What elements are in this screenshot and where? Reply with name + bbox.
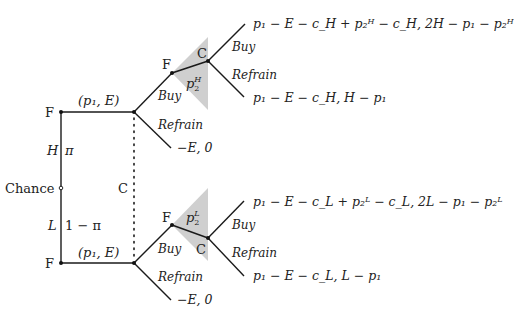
payoff-top-refrain: p₁ − E − c_H, H − p₁: [253, 92, 386, 105]
node-consumer2-bottom: [206, 236, 210, 240]
label-bottom-c-refrain: Refrain: [232, 247, 277, 259]
label-bottom-refrain: Refrain: [158, 271, 203, 283]
label-type-low: L: [48, 219, 57, 232]
label-type-high: H: [47, 144, 58, 157]
label-firm2-top: F: [162, 58, 171, 71]
label-bottom-c-buy: Buy: [232, 219, 255, 231]
node-consumer-bottom: [132, 261, 136, 265]
label-consumer2-bottom: C: [196, 243, 206, 256]
label-prob-low: 1 − π: [65, 219, 101, 232]
node-consumer-top: [132, 110, 136, 114]
label-offer-bottom: (p₁, E): [78, 246, 119, 259]
label-chance: Chance: [5, 182, 54, 195]
label-bottom-buy: Buy: [158, 243, 181, 255]
node-chance: [59, 186, 63, 190]
label-top-c-buy: Buy: [232, 41, 255, 53]
payoff-bottom-refrain-first: −E, 0: [177, 294, 213, 307]
label-firm-bottom: F: [45, 257, 54, 270]
payoff-bottom-buy: p₁ − E − c_L + p₂ᴸ − c_L, 2L − p₁ − p₂ᴸ: [253, 196, 502, 209]
payoff-top-refrain-first: −E, 0: [177, 142, 213, 155]
label-second-price-bottom: pL2: [186, 209, 200, 227]
node-firm-bottom: [59, 261, 63, 265]
node-firm-top: [59, 110, 63, 114]
label-firm2-bottom: F: [162, 211, 171, 224]
label-top-refrain: Refrain: [158, 119, 203, 131]
label-top-buy: Buy: [158, 90, 181, 102]
payoff-bottom-refrain: p₁ − E − c_L, L − p₁: [253, 270, 381, 283]
label-prob-high: π: [65, 144, 74, 157]
label-top-c-refrain: Refrain: [232, 69, 277, 81]
label-firm-top: F: [45, 106, 54, 119]
label-information-set: C: [118, 182, 128, 195]
label-consumer2-top: C: [197, 47, 207, 60]
payoff-top-buy: p₁ − E − c_H + p₂ᴴ − c_H, 2H − p₁ − p₂ᴴ: [253, 18, 514, 31]
label-offer-top: (p₁, E): [78, 94, 119, 107]
label-second-price-top: pH2: [186, 75, 201, 93]
